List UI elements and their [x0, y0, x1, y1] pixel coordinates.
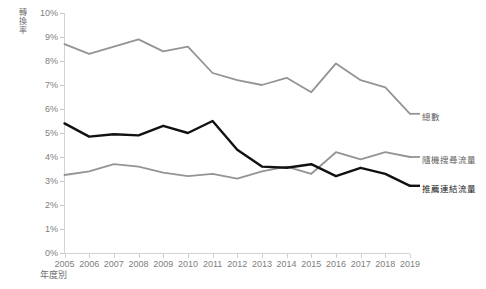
y-tick-mark: [60, 253, 64, 254]
x-tick-label: 2010: [178, 259, 198, 269]
x-tick-label: 2006: [79, 259, 99, 269]
y-tick-mark: [60, 229, 64, 230]
x-tick-label: 2016: [326, 259, 346, 269]
x-tick-label: 2009: [153, 259, 173, 269]
x-tick-label: 2008: [129, 259, 149, 269]
y-tick-mark: [60, 37, 64, 38]
x-tick-label: 2011: [203, 259, 222, 269]
x-tick-mark: [361, 254, 362, 258]
y-tick-mark: [60, 181, 64, 182]
x-tick-mark: [213, 254, 214, 258]
x-tick-label: 2019: [400, 259, 420, 269]
x-tick-label: 2007: [104, 259, 124, 269]
series-line-1: [65, 152, 411, 178]
x-tick-label: 2012: [227, 259, 247, 269]
x-tick-mark: [262, 254, 263, 258]
x-tick-mark: [311, 254, 312, 258]
x-tick-label: 2014: [277, 259, 297, 269]
y-tick-mark: [60, 157, 64, 158]
series-label-referral: 推薦連結流量: [422, 182, 476, 194]
line-chart: 轉 換 率 0%1%2%3%4%5%6%7%8%9%10% 年度別 總數 隨機搜…: [0, 0, 486, 289]
x-tick-mark: [410, 254, 411, 258]
y-tick-mark: [60, 205, 64, 206]
y-tick-mark: [60, 133, 64, 134]
x-tick-mark: [237, 254, 238, 258]
y-tick-mark: [60, 85, 64, 86]
x-tick-mark: [114, 254, 115, 258]
series-label-organic: 隨機搜尋流量: [422, 153, 476, 165]
x-tick-mark: [139, 254, 140, 258]
x-tick-mark: [188, 254, 189, 258]
y-tick-mark: [60, 13, 64, 14]
x-tick-mark: [89, 254, 90, 258]
x-tick-mark: [287, 254, 288, 258]
y-tick-mark: [60, 109, 64, 110]
x-tick-label: 2018: [375, 259, 395, 269]
x-tick-mark: [336, 254, 337, 258]
series-line-2: [65, 121, 411, 186]
x-tick-label: 2013: [252, 259, 272, 269]
plot-area: [0, 0, 486, 289]
y-tick-mark: [60, 61, 64, 62]
x-tick-mark: [385, 254, 386, 258]
x-tick-mark: [163, 254, 164, 258]
x-tick-label: 2015: [301, 259, 321, 269]
series-line-0: [65, 39, 411, 113]
x-tick-label: 2005: [54, 259, 74, 269]
x-tick-label: 2017: [351, 259, 371, 269]
series-label-total: 總數: [422, 110, 440, 122]
x-tick-mark: [65, 254, 66, 258]
x-axis-title: 年度別: [40, 268, 67, 281]
